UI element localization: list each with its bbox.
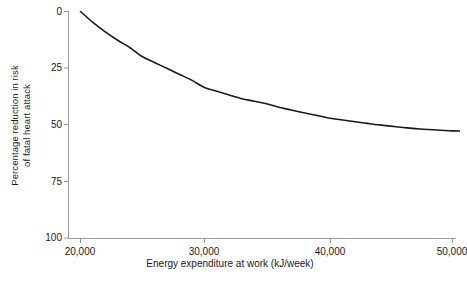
x-tick-label: 40,000 bbox=[315, 247, 346, 257]
x-tick-label: 50,000 bbox=[437, 247, 467, 257]
x-tick-label: 20,000 bbox=[65, 247, 96, 257]
x-tick-label: 30,000 bbox=[189, 247, 220, 257]
figure-caption bbox=[0, 273, 460, 281]
x-axis-title: Energy expenditure at work (kJ/week) bbox=[0, 258, 460, 269]
